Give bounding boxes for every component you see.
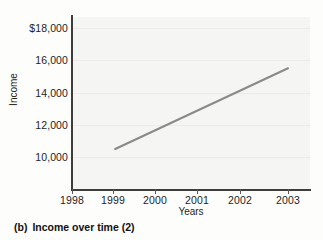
x-tick-label: 2000 (143, 194, 167, 206)
x-tick-label: 2001 (185, 194, 209, 206)
x-axis-line (71, 189, 311, 191)
y-tick-label: 16,000 (4, 54, 68, 66)
y-axis-line (71, 15, 73, 191)
y-tick-label: $18,000 (4, 22, 68, 34)
y-tick-label: 10,000 (4, 151, 68, 163)
x-tick-label: 1998 (60, 194, 84, 206)
figure-income-over-time-2: $18,000 16,000 14,000 12,000 10,000 1998… (0, 0, 323, 240)
y-axis-title: Income (8, 73, 19, 106)
x-tick-label: 2002 (228, 194, 252, 206)
x-axis-title: Years (72, 206, 310, 217)
gridline (72, 28, 310, 29)
x-tick-label: 2003 (276, 194, 300, 206)
caption-text: Income over time (2) (32, 221, 134, 233)
gridline (72, 60, 310, 61)
figure-caption: (b)Income over time (2) (14, 221, 135, 233)
plot-area (72, 17, 310, 189)
caption-label: (b) (14, 221, 27, 233)
x-tick-label: 1999 (101, 194, 125, 206)
y-tick-labels: $18,000 16,000 14,000 12,000 10,000 (0, 0, 68, 240)
y-tick-label: 12,000 (4, 119, 68, 131)
gridline (72, 93, 310, 94)
gridline (72, 125, 310, 126)
gridline (72, 157, 310, 158)
